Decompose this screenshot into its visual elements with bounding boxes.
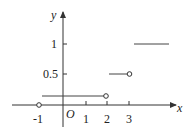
y-axis-label: y	[50, 8, 57, 22]
step-function-diagram: y x O -1 1 2 3 1 0.5	[0, 0, 193, 134]
y-tick-label-0-5: 0.5	[43, 67, 58, 81]
origin-label: O	[66, 107, 75, 121]
open-point-x-neg1	[37, 103, 42, 108]
x-tick-label-neg1: -1	[33, 112, 43, 126]
x-tick-label-2: 2	[104, 112, 110, 126]
open-point-x3	[127, 72, 132, 77]
y-tick-label-1: 1	[51, 37, 57, 51]
x-tick-label-3: 3	[126, 112, 132, 126]
open-point-x2	[104, 94, 109, 99]
x-axis-label: x	[176, 101, 183, 115]
x-tick-label-1: 1	[83, 112, 89, 126]
